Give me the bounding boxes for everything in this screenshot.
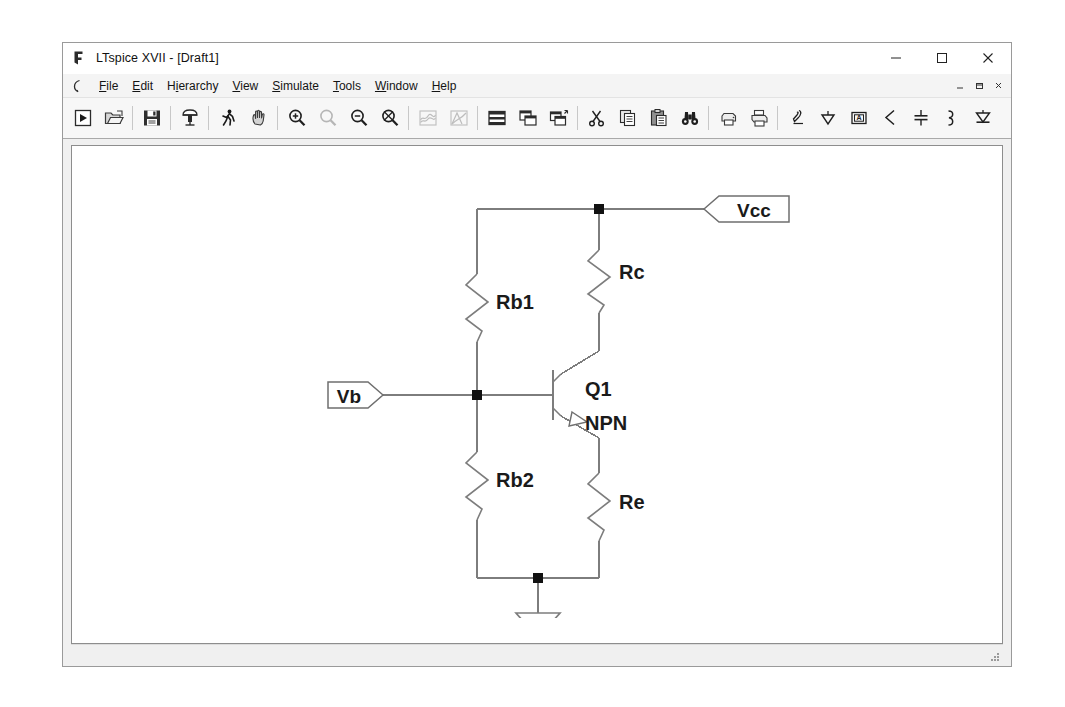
- zoom-in-icon[interactable]: [281, 102, 312, 134]
- junction-base-node: [472, 390, 482, 400]
- toolbar-separator: [777, 106, 778, 130]
- schematic-canvas[interactable]: Vcc Vb Rb1 Rc Rb2 Re Q1 NPN: [71, 145, 1003, 644]
- resistor-rc-body: [588, 250, 610, 313]
- junction-vcc-node: [594, 204, 604, 214]
- menu-tools[interactable]: Tools: [326, 77, 368, 95]
- draw-wire-pencil-icon[interactable]: [781, 102, 812, 134]
- print-preview-icon[interactable]: [712, 102, 743, 134]
- mdi-close-button[interactable]: [990, 77, 1007, 94]
- waveform-area-icon[interactable]: [443, 102, 474, 134]
- junction-ground-node: [533, 573, 543, 583]
- cascade-icon[interactable]: [543, 102, 574, 134]
- ltspice-main-window: LTspice XVII - [Draft1] File Edit Hierar…: [62, 42, 1012, 667]
- menu-window[interactable]: Window: [368, 77, 425, 95]
- transistor-collector-lead: [553, 374, 561, 382]
- toolbar-separator: [477, 106, 478, 130]
- maximize-button[interactable]: [919, 43, 965, 73]
- resistor-re-body: [588, 473, 610, 541]
- npn-transistor-q1: [553, 370, 587, 426]
- save-file-icon[interactable]: [136, 102, 167, 134]
- run-simulation-icon[interactable]: [212, 102, 243, 134]
- resistor-rb1-body: [466, 274, 488, 342]
- net-port-vb: Vb: [328, 382, 383, 408]
- zoom-fit-icon[interactable]: [374, 102, 405, 134]
- place-capacitor-icon[interactable]: [905, 102, 936, 134]
- mdi-window-controls: [952, 74, 1007, 97]
- new-schematic-icon[interactable]: [67, 102, 98, 134]
- place-diode-icon[interactable]: [967, 102, 998, 134]
- toolbar-separator: [408, 106, 409, 130]
- pan-hand-icon[interactable]: [243, 102, 274, 134]
- waveform-view-icon[interactable]: [412, 102, 443, 134]
- menu-file[interactable]: File: [92, 77, 125, 95]
- hierarchy-icon[interactable]: [174, 102, 205, 134]
- open-file-icon[interactable]: [98, 102, 129, 134]
- resistor-rb2-body: [466, 452, 488, 520]
- zoom-area-icon[interactable]: [312, 102, 343, 134]
- label-rc: Rc: [619, 261, 645, 283]
- place-inductor-icon[interactable]: [936, 102, 967, 134]
- mdi-restore-button[interactable]: [971, 77, 988, 94]
- main-toolbar: A: [63, 98, 1011, 139]
- menu-edit[interactable]: Edit: [125, 77, 160, 95]
- place-ground-icon[interactable]: [812, 102, 843, 134]
- zoom-out-icon[interactable]: [343, 102, 374, 134]
- label-rb1: Rb1: [496, 291, 534, 313]
- vb-flag-label: Vb: [337, 386, 361, 407]
- ltspice-small-icon[interactable]: [70, 78, 86, 94]
- place-label-icon[interactable]: A: [843, 102, 874, 134]
- cut-scissors-icon[interactable]: [581, 102, 612, 134]
- label-q1: Q1: [585, 378, 612, 400]
- label-q1-model: NPN: [585, 412, 627, 434]
- print-icon[interactable]: [743, 102, 774, 134]
- transistor-emitter-lead: [553, 408, 561, 416]
- toolbar-separator: [170, 106, 171, 130]
- ltspice-logo-icon: [71, 49, 89, 67]
- close-button[interactable]: [965, 43, 1011, 73]
- wire-collector: [561, 351, 599, 374]
- minimize-button[interactable]: [873, 43, 919, 73]
- mdi-client-area: Vcc Vb Rb1 Rc Rb2 Re Q1 NPN: [63, 139, 1011, 666]
- status-bar: [71, 644, 1003, 663]
- tile-vertical-icon[interactable]: [512, 102, 543, 134]
- toolbar-separator: [577, 106, 578, 130]
- vcc-flag-label: Vcc: [737, 200, 771, 221]
- title-bar[interactable]: LTspice XVII - [Draft1]: [63, 43, 1011, 74]
- toolbar-separator: [277, 106, 278, 130]
- menu-view[interactable]: View: [225, 77, 265, 95]
- label-re: Re: [619, 491, 645, 513]
- wires: [383, 209, 704, 613]
- menu-bar: File Edit Hierarchy View Simulate Tools …: [63, 74, 1011, 98]
- toolbar-separator: [208, 106, 209, 130]
- toolbar-separator: [132, 106, 133, 130]
- toolbar-separator: [708, 106, 709, 130]
- place-resistor-icon[interactable]: [874, 102, 905, 134]
- menu-simulate[interactable]: Simulate: [265, 77, 326, 95]
- ground-triangle-icon: [516, 613, 560, 618]
- net-port-vcc: Vcc: [704, 196, 789, 222]
- menu-hierarchy[interactable]: Hierarchy: [160, 77, 225, 95]
- window-controls: [873, 43, 1011, 73]
- mdi-minimize-button[interactable]: [952, 77, 969, 94]
- tile-horizontal-icon[interactable]: [481, 102, 512, 134]
- find-binoculars-icon[interactable]: [674, 102, 705, 134]
- resize-grip[interactable]: [988, 649, 1001, 662]
- svg-text:A: A: [856, 114, 861, 121]
- schematic-drawing: Vcc Vb Rb1 Rc Rb2 Re Q1 NPN: [72, 146, 1002, 618]
- window-title: LTspice XVII - [Draft1]: [96, 51, 219, 65]
- paste-icon[interactable]: [643, 102, 674, 134]
- label-rb2: Rb2: [496, 469, 534, 491]
- copy-icon[interactable]: [612, 102, 643, 134]
- menu-help[interactable]: Help: [425, 77, 464, 95]
